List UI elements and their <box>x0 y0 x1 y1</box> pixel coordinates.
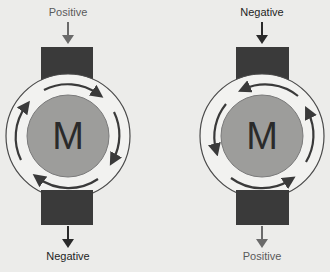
right-motor-letter: M <box>232 113 292 159</box>
bottom-brush <box>236 190 289 225</box>
left-motor-letter: M <box>38 113 98 159</box>
right-bottom-label: Positive <box>212 250 312 262</box>
bottom-brush <box>41 190 93 225</box>
left-bottom-label: Negative <box>18 250 118 262</box>
right-top-label: Negative <box>212 6 312 18</box>
left-top-label: Positive <box>18 6 118 18</box>
